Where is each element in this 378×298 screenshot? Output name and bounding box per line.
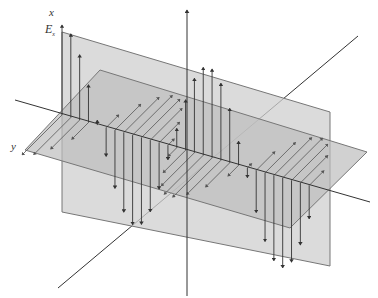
e-field-label: Ex: [45, 22, 55, 37]
e-field-subscript: x: [52, 31, 55, 37]
x-axis-label: x: [49, 6, 54, 18]
em-wave-diagram: [0, 0, 378, 298]
y-axis-label: y: [11, 140, 16, 152]
